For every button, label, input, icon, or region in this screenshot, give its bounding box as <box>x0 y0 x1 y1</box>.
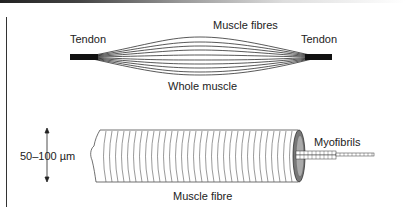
label-muscle-fibres: Muscle fibres <box>213 19 278 31</box>
label-tendon-left: Tendon <box>70 33 106 45</box>
tendon-left <box>70 54 98 60</box>
label-muscle-fibre: Muscle fibre <box>173 190 232 202</box>
label-whole-muscle: Whole muscle <box>168 80 237 92</box>
whole-muscle-drawing <box>70 37 332 75</box>
myofibrils-drawing <box>296 151 374 159</box>
label-myofibrils: Myofibrils <box>314 136 360 148</box>
label-size: 50–100 µm <box>20 150 75 162</box>
muscle-diagram-graphic <box>0 0 405 216</box>
label-tendon-right: Tendon <box>301 33 337 45</box>
